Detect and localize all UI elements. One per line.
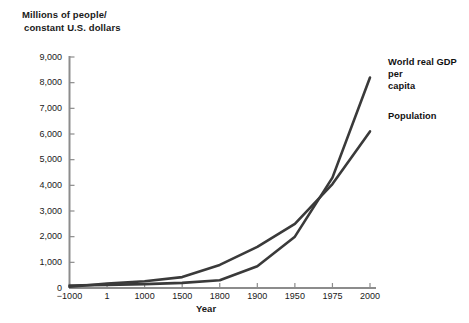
axes	[69, 56, 376, 288]
plot-area	[0, 0, 469, 323]
chart-figure: Millions of people/ constant U.S. dollar…	[0, 0, 469, 323]
series-label-population: Population	[388, 110, 468, 122]
series-line-world-real-gdp-per-capita	[70, 78, 371, 286]
y-axis-tick-label: 9,000	[18, 53, 62, 62]
y-axis-tick-label: 8,000	[18, 78, 62, 87]
x-axis-tick-label: 2000	[343, 291, 397, 301]
y-axis-tick-label: 2,000	[18, 232, 62, 241]
series-line-population	[70, 131, 371, 286]
y-axis-tick-label: 3,000	[18, 207, 62, 216]
y-axis-tick-label: 1,000	[18, 258, 62, 267]
series-leader-line	[370, 117, 384, 131]
y-axis-tick-label: 5,000	[18, 155, 62, 164]
series-lines	[70, 62, 385, 287]
y-axis-tick-label: 4,000	[18, 181, 62, 190]
x-axis-title: Year	[196, 303, 216, 314]
series-leader-line	[370, 62, 384, 78]
y-axis-tick-label: 6,000	[18, 130, 62, 139]
y-axis-tick-label: 7,000	[18, 104, 62, 113]
series-label-world-real-gdp-per-capita: World real GDP per capita	[388, 56, 468, 92]
